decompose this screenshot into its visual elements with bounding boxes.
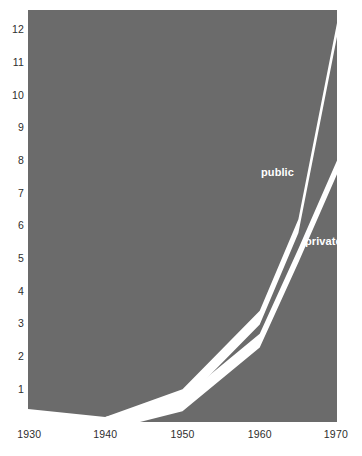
y-tick-label: 11: [0, 57, 24, 68]
x-tick-label: 1960: [248, 428, 272, 440]
y-tick-label: 8: [0, 155, 24, 166]
y-tick-label: 9: [0, 122, 24, 133]
y-tick-label: 5: [0, 253, 24, 264]
x-tick-label: 1940: [93, 428, 117, 440]
x-tick-label: 1950: [171, 428, 195, 440]
series-label-private: private: [305, 235, 342, 247]
plot-area: [28, 10, 337, 422]
x-axis: 19301940195019601970: [0, 428, 362, 446]
y-tick-label: 12: [0, 24, 24, 35]
x-tick-label: 1930: [17, 428, 41, 440]
series-label-public: public: [261, 166, 294, 178]
chart-figure: 123456789101112 public private 193019401…: [0, 0, 362, 456]
plot-background: [28, 10, 337, 422]
y-tick-label: 6: [0, 220, 24, 231]
y-axis: 123456789101112: [0, 0, 24, 456]
y-tick-label: 4: [0, 286, 24, 297]
plot-svg: [28, 10, 337, 422]
y-tick-label: 1: [0, 384, 24, 395]
y-tick-label: 3: [0, 318, 24, 329]
y-tick-label: 10: [0, 90, 24, 101]
y-tick-label: 2: [0, 351, 24, 362]
x-tick-label: 1970: [324, 428, 348, 440]
y-tick-label: 7: [0, 188, 24, 199]
